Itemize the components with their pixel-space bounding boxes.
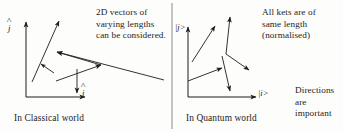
quantum-y-axis-label: |j>	[175, 23, 186, 32]
classical-vector-1	[32, 21, 59, 82]
quantum-vectors	[188, 17, 249, 91]
note-directions-important: Directions are important	[295, 85, 343, 120]
caption-classical-world: In Classical world	[14, 113, 84, 124]
vector-comparison-figure: 2D vectors of varying lengths can be con…	[0, 0, 343, 132]
caption-quantum-world: In Quantum world	[186, 113, 257, 124]
classical-vector-5	[56, 65, 101, 81]
note-classical-vectors: 2D vectors of varying lengths can be con…	[96, 7, 180, 42]
classical-vector-2	[57, 52, 101, 65]
quantum-x-axis-label: |i>	[258, 89, 269, 98]
quantum-ket-2	[226, 17, 230, 54]
classical-y-axis-label: j	[8, 24, 11, 33]
classical-vector-4	[41, 64, 54, 73]
quantum-ket-1	[192, 26, 215, 62]
note-quantum-kets: All kets are of same length (normalised)	[262, 7, 342, 42]
classical-vector-3	[57, 52, 164, 80]
quantum-ket-4	[188, 68, 222, 81]
classical-x-axis-label: i	[82, 89, 85, 98]
i-hat-glyph: i	[82, 89, 85, 98]
quantum-ket-5	[222, 56, 230, 91]
j-hat-glyph: j	[8, 24, 11, 33]
classical-axes	[26, 22, 85, 97]
quantum-ket-3	[226, 54, 249, 70]
quantum-axes	[188, 27, 256, 97]
